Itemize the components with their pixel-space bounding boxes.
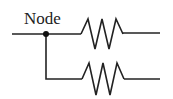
resistor-bottom — [82, 63, 124, 95]
circuit-diagram: Node — [0, 0, 173, 99]
node-junction-dot — [43, 31, 49, 37]
node-label: Node — [24, 9, 61, 28]
bottom-wire-in — [46, 34, 82, 79]
bottom-branch — [46, 34, 160, 95]
resistor-top — [81, 19, 123, 49]
